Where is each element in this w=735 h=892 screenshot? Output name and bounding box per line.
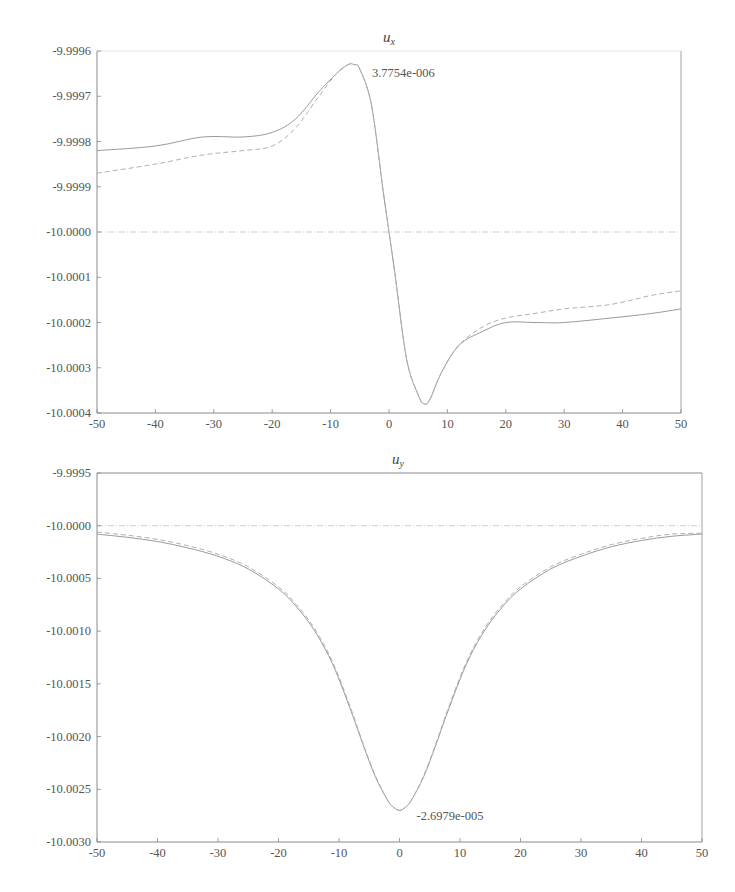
y-tick-label: -9.9999	[52, 180, 91, 194]
x-tick-label: 50	[675, 417, 688, 431]
x-tick-label: -40	[149, 846, 166, 860]
x-tick-label: -10	[322, 417, 339, 431]
x-tick-label: -50	[89, 417, 106, 431]
x-tick-label: 50	[696, 846, 709, 860]
series-dashed-line	[97, 64, 681, 405]
y-tick-label: -10.0015	[46, 677, 91, 691]
chart-ux: -50-40-30-20-1001020304050-9.9996-9.9997…	[0, 0, 735, 440]
y-tick-label: -10.0010	[46, 624, 91, 638]
y-tick-label: -9.9997	[52, 89, 91, 103]
chart-uy: -50-40-30-20-1001020304050-9.9995-10.000…	[0, 440, 735, 892]
y-tick-label: -9.9998	[52, 135, 91, 149]
y-tick-label: -10.0003	[46, 361, 91, 375]
chart-ux-svg: -50-40-30-20-1001020304050-9.9996-9.9997…	[0, 0, 735, 440]
x-tick-label: 0	[396, 846, 402, 860]
x-tick-label: 20	[500, 417, 513, 431]
x-tick-label: -20	[270, 846, 287, 860]
x-tick-label: 30	[575, 846, 588, 860]
y-tick-label: -9.9996	[52, 44, 91, 58]
extremum-annotation: 3.7754e-006	[372, 66, 435, 80]
x-tick-label: 0	[386, 417, 392, 431]
x-tick-label: 10	[441, 417, 454, 431]
x-tick-label: -30	[205, 417, 222, 431]
y-tick-label: -10.0000	[46, 225, 91, 239]
chart-uy-svg: -50-40-30-20-1001020304050-9.9995-10.000…	[0, 440, 735, 892]
y-tick-label: -10.0000	[46, 519, 91, 533]
extremum-annotation: -2.6979e-005	[417, 809, 484, 823]
y-tick-label: -10.0005	[46, 571, 91, 585]
x-tick-label: -10	[331, 846, 348, 860]
x-tick-label: 10	[454, 846, 467, 860]
x-tick-label: -30	[210, 846, 227, 860]
x-tick-label: -40	[147, 417, 164, 431]
y-tick-label: -10.0001	[46, 270, 91, 284]
chart-title: ux	[383, 29, 396, 47]
x-tick-label: 40	[635, 846, 648, 860]
y-tick-label: -10.0004	[46, 406, 92, 420]
y-tick-label: -10.0002	[46, 316, 91, 330]
series-dashed-line	[97, 532, 702, 810]
y-tick-label: -9.9995	[52, 466, 91, 480]
x-tick-label: 30	[558, 417, 571, 431]
x-tick-label: 20	[514, 846, 527, 860]
y-tick-label: -10.0030	[46, 835, 91, 849]
x-tick-label: 40	[616, 417, 629, 431]
x-tick-label: -50	[89, 846, 106, 860]
series-solid-line	[97, 534, 702, 810]
y-tick-label: -10.0025	[46, 782, 91, 796]
x-tick-label: -20	[264, 417, 281, 431]
y-tick-label: -10.0020	[46, 730, 91, 744]
chart-title: uy	[392, 451, 405, 469]
